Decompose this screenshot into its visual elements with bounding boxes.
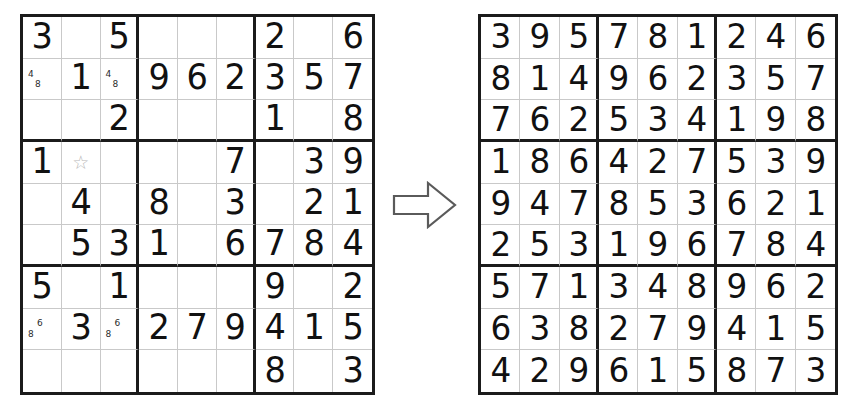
solution-cell-r1c6[interactable]: 1: [678, 17, 717, 59]
solution-cell-r7c9[interactable]: 2: [796, 267, 835, 309]
puzzle-cell-r1c3[interactable]: 5: [101, 17, 140, 59]
puzzle-cell-r6c2[interactable]: 5: [62, 225, 101, 267]
solution-cell-r5c2[interactable]: 4: [520, 184, 559, 226]
solution-cell-r8c4[interactable]: 2: [599, 309, 638, 351]
puzzle-cell-r1c8[interactable]: [294, 17, 333, 59]
solution-cell-r6c5[interactable]: 9: [638, 225, 677, 267]
solution-cell-r6c8[interactable]: 8: [756, 225, 795, 267]
solution-cell-r3c5[interactable]: 3: [638, 100, 677, 142]
solution-cell-r9c7[interactable]: 8: [717, 350, 756, 392]
solution-cell-r5c4[interactable]: 8: [599, 184, 638, 226]
solution-cell-r6c2[interactable]: 5: [520, 225, 559, 267]
solution-cell-r6c6[interactable]: 6: [678, 225, 717, 267]
solution-cell-r7c7[interactable]: 9: [717, 267, 756, 309]
puzzle-cell-r2c4[interactable]: 9: [139, 59, 178, 101]
puzzle-cell-r9c7[interactable]: 8: [256, 350, 295, 392]
solution-cell-r5c8[interactable]: 2: [756, 184, 795, 226]
sudoku-grid-solution[interactable]: 3957812468149623577625341981864275399478…: [478, 14, 838, 395]
puzzle-cell-r6c5[interactable]: [178, 225, 217, 267]
solution-cell-r4c1[interactable]: 1: [481, 142, 520, 184]
puzzle-cell-r8c3[interactable]: 68: [101, 309, 140, 351]
solution-cell-r2c5[interactable]: 6: [638, 59, 677, 101]
puzzle-cell-r6c9[interactable]: 4: [333, 225, 372, 267]
solution-cell-r1c3[interactable]: 5: [560, 17, 599, 59]
solution-cell-r1c5[interactable]: 8: [638, 17, 677, 59]
solution-cell-r7c8[interactable]: 6: [756, 267, 795, 309]
solution-cell-r8c5[interactable]: 7: [638, 309, 677, 351]
solution-cell-r8c1[interactable]: 6: [481, 309, 520, 351]
puzzle-cell-r6c1[interactable]: [23, 225, 62, 267]
puzzle-cell-r3c6[interactable]: [217, 100, 256, 142]
solution-cell-r2c3[interactable]: 4: [560, 59, 599, 101]
puzzle-cell-r2c7[interactable]: 3: [256, 59, 295, 101]
puzzle-cell-r8c5[interactable]: 7: [178, 309, 217, 351]
puzzle-cell-r8c2[interactable]: 3: [62, 309, 101, 351]
puzzle-cell-r6c7[interactable]: 7: [256, 225, 295, 267]
puzzle-cell-r8c1[interactable]: 68: [23, 309, 62, 351]
puzzle-cell-r5c1[interactable]: [23, 184, 62, 226]
puzzle-cell-r8c8[interactable]: 1: [294, 309, 333, 351]
puzzle-cell-r9c1[interactable]: [23, 350, 62, 392]
solution-cell-r7c3[interactable]: 1: [560, 267, 599, 309]
solution-cell-r1c8[interactable]: 4: [756, 17, 795, 59]
puzzle-cell-r1c5[interactable]: [178, 17, 217, 59]
solution-cell-r8c2[interactable]: 3: [520, 309, 559, 351]
solution-cell-r4c5[interactable]: 2: [638, 142, 677, 184]
solution-cell-r9c2[interactable]: 2: [520, 350, 559, 392]
puzzle-cell-r2c6[interactable]: 2: [217, 59, 256, 101]
solution-cell-r1c7[interactable]: 2: [717, 17, 756, 59]
solution-cell-r6c3[interactable]: 3: [560, 225, 599, 267]
puzzle-cell-r5c6[interactable]: 3: [217, 184, 256, 226]
puzzle-cell-r5c3[interactable]: [101, 184, 140, 226]
puzzle-cell-r7c9[interactable]: 2: [333, 267, 372, 309]
solution-cell-r9c4[interactable]: 6: [599, 350, 638, 392]
puzzle-cell-r1c9[interactable]: 6: [333, 17, 372, 59]
puzzle-cell-r6c8[interactable]: 8: [294, 225, 333, 267]
puzzle-cell-r9c8[interactable]: [294, 350, 333, 392]
solution-cell-r6c9[interactable]: 4: [796, 225, 835, 267]
puzzle-cell-r9c2[interactable]: [62, 350, 101, 392]
puzzle-cell-r9c9[interactable]: 3: [333, 350, 372, 392]
solution-cell-r5c3[interactable]: 7: [560, 184, 599, 226]
puzzle-cell-r4c8[interactable]: 3: [294, 142, 333, 184]
solution-cell-r3c9[interactable]: 8: [796, 100, 835, 142]
solution-cell-r3c2[interactable]: 6: [520, 100, 559, 142]
solution-cell-r4c8[interactable]: 3: [756, 142, 795, 184]
puzzle-cell-r3c9[interactable]: 8: [333, 100, 372, 142]
puzzle-cell-r9c4[interactable]: [139, 350, 178, 392]
puzzle-cell-r4c3[interactable]: [101, 142, 140, 184]
puzzle-cell-r7c2[interactable]: [62, 267, 101, 309]
puzzle-cell-r2c3[interactable]: 48: [101, 59, 140, 101]
solution-cell-r7c4[interactable]: 3: [599, 267, 638, 309]
puzzle-cell-r4c6[interactable]: 7: [217, 142, 256, 184]
puzzle-cell-r7c5[interactable]: [178, 267, 217, 309]
solution-cell-r2c4[interactable]: 9: [599, 59, 638, 101]
puzzle-cell-r1c4[interactable]: [139, 17, 178, 59]
solution-cell-r5c9[interactable]: 1: [796, 184, 835, 226]
puzzle-cell-r6c3[interactable]: 3: [101, 225, 140, 267]
solution-cell-r6c4[interactable]: 1: [599, 225, 638, 267]
puzzle-cell-r3c1[interactable]: [23, 100, 62, 142]
puzzle-cell-r2c1[interactable]: 48: [23, 59, 62, 101]
solution-cell-r7c6[interactable]: 8: [678, 267, 717, 309]
solution-cell-r2c6[interactable]: 2: [678, 59, 717, 101]
solution-cell-r3c6[interactable]: 4: [678, 100, 717, 142]
puzzle-cell-r4c2[interactable]: ☆: [62, 142, 101, 184]
solution-cell-r4c9[interactable]: 9: [796, 142, 835, 184]
puzzle-cell-r4c5[interactable]: [178, 142, 217, 184]
puzzle-cell-r2c5[interactable]: 6: [178, 59, 217, 101]
puzzle-cell-r3c3[interactable]: 2: [101, 100, 140, 142]
puzzle-cell-r4c1[interactable]: 1: [23, 142, 62, 184]
puzzle-cell-r1c2[interactable]: [62, 17, 101, 59]
puzzle-cell-r3c2[interactable]: [62, 100, 101, 142]
puzzle-cell-r7c1[interactable]: 5: [23, 267, 62, 309]
solution-cell-r5c1[interactable]: 9: [481, 184, 520, 226]
solution-cell-r4c3[interactable]: 6: [560, 142, 599, 184]
puzzle-cell-r6c4[interactable]: 1: [139, 225, 178, 267]
solution-cell-r6c1[interactable]: 2: [481, 225, 520, 267]
puzzle-cell-r5c9[interactable]: 1: [333, 184, 372, 226]
puzzle-cell-r8c4[interactable]: 2: [139, 309, 178, 351]
puzzle-cell-r7c6[interactable]: [217, 267, 256, 309]
puzzle-cell-r7c4[interactable]: [139, 267, 178, 309]
solution-cell-r1c4[interactable]: 7: [599, 17, 638, 59]
